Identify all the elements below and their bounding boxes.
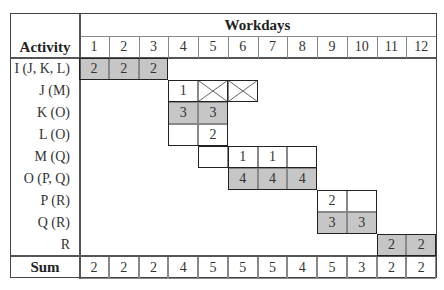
- sum-cell-day-3: 2: [139, 256, 169, 279]
- day-header-1: 1: [79, 36, 109, 58]
- rule-v: [109, 36, 110, 58]
- day-header-4: 4: [168, 36, 198, 58]
- rule-v: [377, 36, 378, 58]
- rule-v: [287, 36, 288, 58]
- activity-block: [228, 146, 317, 190]
- day-header-9: 9: [317, 36, 347, 58]
- rule-h: [11, 57, 436, 59]
- sum-cell-day-5: 5: [198, 256, 228, 279]
- day-header-6: 6: [228, 36, 258, 58]
- sum-cell-day-1: 2: [79, 256, 109, 279]
- day-header-12: 12: [406, 36, 436, 58]
- rule-v: [139, 36, 140, 58]
- sum-cell-day-9: 5: [317, 256, 347, 279]
- sum-cell-day-6: 5: [228, 256, 258, 279]
- rule-v: [317, 36, 318, 58]
- activity-block: [168, 80, 228, 146]
- day-header-2: 2: [109, 36, 139, 58]
- rule-v: [406, 36, 407, 58]
- activity-header: Activity: [11, 36, 79, 58]
- activity-block: [79, 58, 168, 80]
- activity-label: J (M): [11, 80, 79, 102]
- rule-v: [258, 36, 259, 58]
- activity-label: I (J, K, L): [11, 58, 79, 80]
- day-header-3: 3: [139, 36, 169, 58]
- workdays-header: Workdays: [79, 14, 436, 36]
- activity-label: O (P, Q): [11, 168, 79, 190]
- activity-label: R: [11, 234, 79, 256]
- sum-cell-day-10: 3: [347, 256, 377, 279]
- day-header-11: 11: [377, 36, 407, 58]
- rule-v: [198, 36, 199, 58]
- rule-v: [168, 36, 169, 58]
- sum-label: Sum: [11, 256, 79, 278]
- sum-cell-day-8: 4: [287, 256, 317, 279]
- activity-label: P (R): [11, 190, 79, 212]
- day-header-5: 5: [198, 36, 228, 58]
- activity-label: Q (R): [11, 212, 79, 234]
- activity-label: K (O): [11, 102, 79, 124]
- day-header-7: 7: [258, 36, 288, 58]
- day-header-10: 10: [347, 36, 377, 58]
- sum-cell-day-2: 2: [109, 256, 139, 279]
- sum-cell-day-4: 4: [168, 256, 198, 279]
- rule-v: [228, 36, 229, 58]
- activity-block: [317, 190, 377, 234]
- rule-h: [11, 255, 436, 257]
- rule-v: [79, 14, 81, 279]
- activity-block: [377, 234, 437, 256]
- activity-label: L (O): [11, 124, 79, 146]
- rule-v: [347, 36, 348, 58]
- sum-cell-day-12: 2: [406, 256, 436, 279]
- workdays-schedule-table: Workdays Activity 123456789101112 I (J, …: [10, 13, 437, 278]
- sum-cell-day-11: 2: [377, 256, 407, 279]
- sum-cell-day-7: 5: [258, 256, 288, 279]
- day-header-8: 8: [287, 36, 317, 58]
- activity-label: M (Q): [11, 146, 79, 168]
